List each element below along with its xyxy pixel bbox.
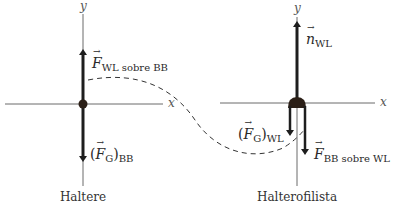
right-x-axis-label: x	[380, 96, 387, 108]
normal-wl-label: nWL	[306, 32, 332, 49]
right-y-axis-label: y	[294, 2, 301, 14]
gravity-wl-label: (FG)WL	[238, 127, 284, 144]
force-wl-on-bb-label: FWL sobre BB	[92, 56, 168, 73]
diagram-graphics	[0, 0, 394, 211]
free-body-diagram: y x FWL sobre BB (FG)BB Haltere y x nWL …	[0, 0, 394, 211]
force-bb-on-wl-label: FBB sobre WL	[314, 147, 390, 164]
left-x-axis-label: x	[168, 97, 175, 109]
right-caption: Halterofilista	[257, 191, 337, 203]
left-y-axis-label: y	[80, 0, 87, 12]
barbell-dot	[79, 100, 88, 109]
left-caption: Haltere	[60, 191, 106, 203]
gravity-bb-label: (FG)BB	[90, 147, 133, 164]
